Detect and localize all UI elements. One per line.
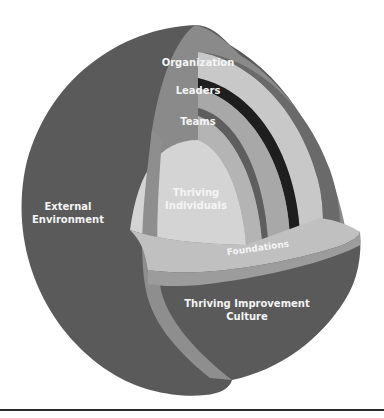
label-external-line2: Environment	[32, 213, 104, 226]
label-organization: Organization	[162, 56, 235, 69]
thriving-culture-diagram: Organization Leaders Teams Thriving Indi…	[0, 0, 384, 418]
label-external-line1: External	[32, 200, 104, 213]
label-culture-line2: Culture	[184, 310, 310, 323]
label-individuals: Thriving Individuals	[165, 186, 227, 212]
label-leaders: Leaders	[176, 84, 221, 97]
label-external: External Environment	[32, 200, 104, 226]
label-individuals-line2: Individuals	[165, 199, 227, 212]
label-teams: Teams	[180, 115, 215, 128]
label-individuals-line1: Thriving	[165, 186, 227, 199]
bottom-divider	[0, 409, 384, 411]
label-culture: Thriving Improvement Culture	[184, 297, 310, 323]
label-culture-line1: Thriving Improvement	[184, 297, 310, 310]
